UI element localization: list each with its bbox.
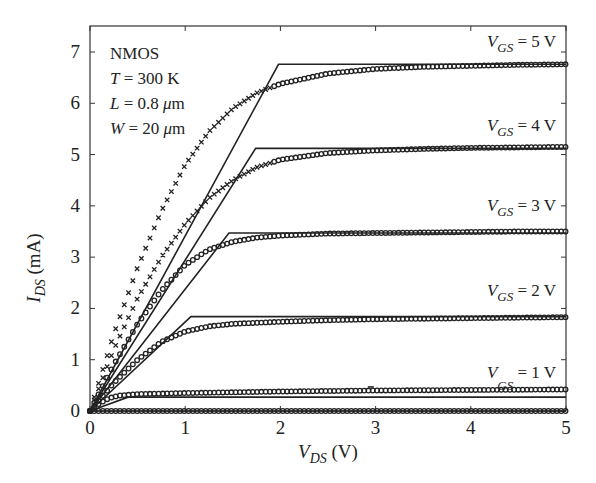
y-axis-title: IDS (mA) (23, 233, 48, 303)
y-tick-label: 3 (71, 246, 81, 267)
x-tick-label: 5 (561, 417, 571, 438)
y-tick-label: 2 (71, 297, 81, 318)
y-tick-label: 4 (71, 195, 81, 216)
vgs-curve-label: VGS = 4 V (487, 116, 557, 139)
y-tick-label: 1 (71, 349, 81, 370)
x-tick-label: 1 (180, 417, 190, 438)
vgs-curve-label: VGS = 5 V (487, 32, 557, 55)
annotation-temperature: T = 300 K (110, 69, 180, 88)
x-tick-label: 4 (466, 417, 476, 438)
x-tick-label: 2 (276, 417, 286, 438)
iv-characteristics-chart: 01234501234567 NMOS T = 300 K L = 0.8 μm… (0, 0, 596, 483)
data-curve (88, 62, 568, 413)
x-tick-label: 0 (85, 417, 95, 438)
y-tick-label: 7 (71, 41, 81, 62)
data-markers (88, 62, 568, 413)
y-tick-label: 0 (71, 400, 81, 421)
y-tick-label: 6 (71, 92, 81, 113)
vgs-curve-label: VGS = 2 V (487, 281, 557, 304)
curve-labels: VGS = 5 VVGS = 4 VVGS = 3 VVGS = 2 VVGS … (487, 32, 557, 393)
annotation-device: NMOS (110, 44, 159, 63)
x-axis-title: VDS (V) (298, 441, 358, 466)
vgs-curve-label: VGS = 3 V (487, 196, 557, 219)
annotation-width: W = 20 μm (110, 119, 185, 138)
device-annotation: NMOS T = 300 K L = 0.8 μm W = 20 μm (109, 44, 185, 138)
x-tick-label: 3 (371, 417, 381, 438)
y-tick-label: 5 (71, 144, 81, 165)
annotation-length: L = 0.8 μm (109, 94, 185, 113)
